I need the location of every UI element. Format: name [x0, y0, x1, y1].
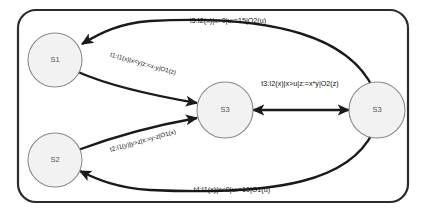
- edge-label-t5: t5:I2(x)|x>0|u:=15|O2(u): [190, 16, 266, 25]
- state-label-s1: S1: [50, 55, 59, 64]
- state-node-s2[interactable]: S2: [28, 133, 82, 187]
- diagram-canvas: S1 S2 S3 S3 t5:I2(x)|x>0|u:=15|O2(u) t1:…: [0, 0, 425, 212]
- state-label-s3-middle: S3: [220, 105, 229, 114]
- edge-label-t4: t4:I1(x)|x<0|u:=10|O1(u): [194, 185, 270, 194]
- state-label-s3-right: S3: [372, 105, 381, 114]
- state-node-s3-right[interactable]: S3: [349, 82, 405, 138]
- state-node-s3-middle[interactable]: S3: [197, 82, 253, 138]
- edge-label-t1: t1:I1(x)|x<y|z:=x-y|O1(z): [109, 51, 177, 77]
- edge-label-t2: t2:I1(y)|y>z|x:=y-z|O1(x): [109, 128, 177, 154]
- edge-label-t3: t3:I2(x)|x>u|z:=x*y|O2(z): [261, 79, 339, 88]
- state-label-s2: S2: [50, 155, 59, 164]
- edge-t1: [78, 72, 197, 103]
- state-node-s1[interactable]: S1: [28, 33, 82, 87]
- state-machine-diagram: S1 S2 S3 S3 t5:I2(x)|x>0|u:=15|O2(u) t1:…: [0, 0, 425, 212]
